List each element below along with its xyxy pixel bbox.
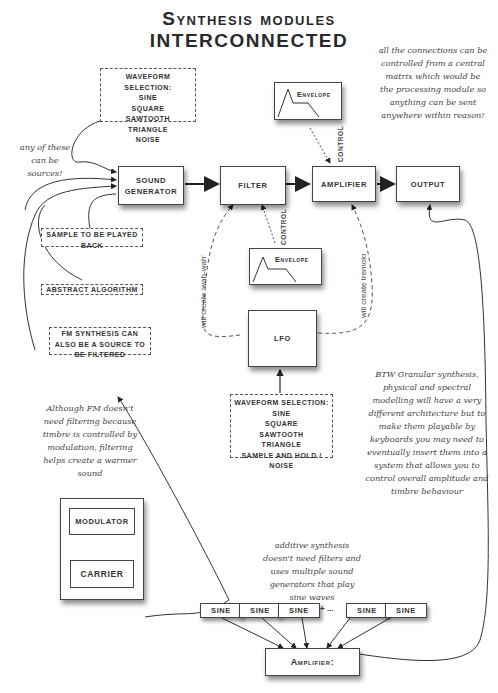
envelope-mid-label: Envelope — [275, 254, 309, 265]
sources-note: any of these can be sources! — [14, 141, 76, 180]
granular-note: BTW Granular synthesis, physical and spe… — [362, 368, 492, 498]
control-label-top: CONTROL — [337, 126, 344, 162]
waveform-option: SAWTOOTH — [233, 430, 330, 441]
waveform-selection-top: WAVEFORM SELECTION: SINE SQUARE SAWTOOTH… — [100, 68, 196, 122]
additive-amplifier-label: Amplifier: — [291, 657, 335, 668]
sample-source: SAMPLE TO BE PLAYED BACK — [41, 228, 143, 247]
matrix-note: all the connections can be controlled fr… — [378, 44, 488, 122]
lfo-module: LFO — [248, 310, 317, 367]
amplifier-module: AMPLIFIER — [312, 166, 376, 202]
additive-amplifier-module: Amplifier: — [265, 648, 360, 676]
sine-generator: SINE — [200, 603, 242, 618]
waveform-option: TRIANGLE — [103, 125, 193, 136]
fm-source: FM SYNTHESIS CAN ALSO BE A SOURCE TO BE … — [49, 327, 151, 355]
carrier-module: CARRIER — [70, 560, 134, 588]
waveform-option: SQUARE — [233, 419, 330, 430]
waveform-option: SQUARE — [103, 104, 193, 115]
waveform-option: NOISE — [233, 461, 330, 472]
waveform-option: NOISE — [103, 135, 193, 146]
envelope-mid-module: Envelope — [249, 248, 322, 285]
waveform-option: TRIANGLE — [233, 440, 330, 451]
fm-note: Although FM doesn't need filtering becau… — [40, 402, 140, 480]
waveform-header: WAVEFORM SELECTION: — [103, 72, 193, 93]
filter-label: FILTER — [238, 180, 267, 191]
fm-block: MODULATOR CARRIER — [60, 498, 144, 600]
tremolo-note: will create tremolo — [359, 254, 368, 318]
sine-generator: SINE — [346, 603, 388, 618]
waveform-option: SAWTOOTH — [103, 114, 193, 125]
envelope-top-label: Envelope — [297, 89, 331, 100]
filter-module: FILTER — [220, 166, 286, 205]
waveform-option: SINE — [233, 409, 330, 420]
waveform-selection-lfo: WAVEFORM SELECTION: SINE SQUARE SAWTOOTH… — [230, 394, 333, 458]
carrier-label: CARRIER — [81, 569, 124, 580]
output-label: OUTPUT — [411, 179, 445, 190]
modulator-label: MODULATOR — [75, 516, 128, 527]
ellipsis-label: + ... — [320, 604, 334, 613]
wah-wah-note: will create 'wah-wah' — [199, 255, 208, 328]
envelope-top-module: Envelope — [274, 82, 342, 120]
sine-generator: SINE — [278, 603, 320, 618]
control-label-mid: CONTROL — [280, 209, 287, 245]
output-module: OUTPUT — [396, 166, 460, 202]
modulator-module: MODULATOR — [69, 508, 135, 535]
waveform-option: SINE — [103, 93, 193, 104]
waveform-header: WAVEFORM SELECTION: — [233, 398, 330, 409]
sine-generator: SINE — [239, 603, 281, 618]
algorithm-source: ABSTRACT ALGORITHM — [41, 284, 143, 295]
amplifier-label: AMPLIFIER — [321, 179, 367, 190]
lfo-label: LFO — [274, 333, 291, 344]
waveform-option: SAMPLE AND HOLD / — [233, 451, 330, 462]
sound-generator-label: SOUND GENERATOR — [119, 175, 183, 197]
sine-generator: SINE — [385, 603, 427, 618]
sound-generator-module: SOUND GENERATOR — [118, 166, 184, 205]
additive-note: additive synthesis doesn't need filters … — [260, 539, 364, 604]
